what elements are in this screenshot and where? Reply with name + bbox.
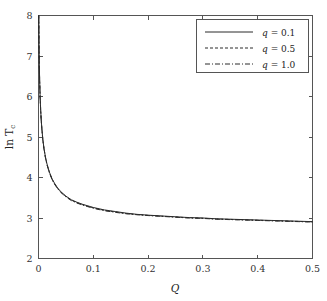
y-axis-title-main: ln T [3, 129, 15, 149]
y-tick-label: 2 [26, 253, 32, 264]
line-chart: 00.10.20.30.40.5 2345678 Q ln Tc q = 0.1… [0, 0, 327, 301]
y-tick-label: 7 [26, 51, 32, 62]
x-axis-title: Q [171, 282, 180, 295]
x-tick-label: 0.4 [250, 263, 265, 274]
x-tick-label: 0.1 [86, 263, 101, 274]
legend-equals: = 0.5 [268, 44, 296, 54]
y-tick-label: 4 [26, 172, 32, 183]
y-axis-title-subscript: c [9, 125, 17, 129]
x-tick-label: 0.5 [305, 263, 320, 274]
legend-label: q = 1.0 [262, 60, 296, 70]
y-tick-label: 5 [26, 132, 32, 143]
legend-label: q = 0.1 [262, 28, 295, 38]
y-tick-label: 3 [26, 213, 32, 224]
y-tick-label: 8 [26, 10, 32, 21]
x-tick-label: 0.2 [141, 263, 156, 274]
legend-label: q = 0.5 [262, 44, 296, 54]
y-tick-label: 6 [26, 91, 32, 102]
chart-figure: 00.10.20.30.40.5 2345678 Q ln Tc q = 0.1… [0, 0, 327, 301]
y-axis-title: ln Tc [3, 125, 17, 149]
x-tick-label: 0 [35, 263, 41, 274]
chart-legend: q = 0.1q = 0.5q = 1.0 [197, 20, 309, 73]
legend-equals: = 0.1 [268, 28, 296, 38]
legend-equals: = 1.0 [268, 60, 296, 70]
x-tick-label: 0.3 [195, 263, 210, 274]
